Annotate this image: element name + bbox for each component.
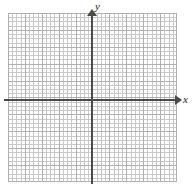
y-axis-label: y — [95, 1, 100, 12]
x-axis-arrowhead-icon — [175, 95, 182, 105]
y-axis-line — [91, 14, 93, 184]
x-axis-label: x — [183, 94, 188, 105]
graph-canvas: x y — [0, 0, 195, 185]
